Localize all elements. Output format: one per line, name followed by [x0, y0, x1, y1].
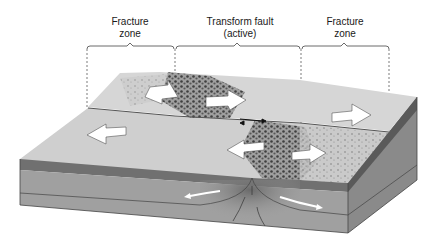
block-diagram — [0, 0, 436, 250]
upwelling-shading — [200, 180, 300, 230]
zone-brackets — [87, 43, 389, 49]
